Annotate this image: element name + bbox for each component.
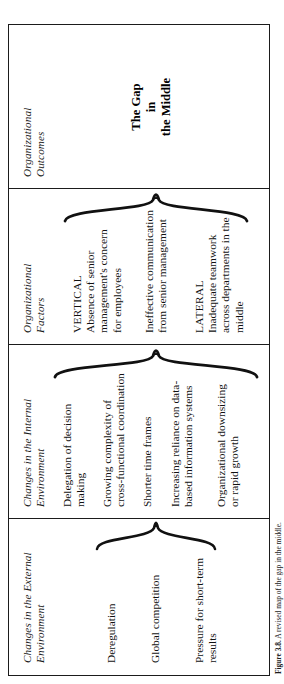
figure-frame: Changes in the External Environment Dere… <box>8 24 270 676</box>
gap-line1: The Gap <box>129 37 144 177</box>
column-header-factors-line1: Organizational <box>21 193 34 333</box>
gap-line3: the Middle <box>159 37 174 177</box>
figure-caption-text: A revised map of the gap in the middle. <box>274 522 283 639</box>
column-header-external-line2: Environment <box>34 523 47 663</box>
rotated-figure-canvas: Changes in the External Environment Dere… <box>0 0 284 684</box>
outcome-gap-in-the-middle: The Gap in the Middle <box>129 37 174 177</box>
column-header-outcomes: Organizational Outcomes <box>21 37 47 177</box>
column-header-outcomes-line2: Outcomes <box>34 37 47 177</box>
column-header-factors-line2: Factors <box>34 193 47 333</box>
figure-page: Changes in the External Environment Dere… <box>0 0 284 684</box>
brace-external-to-internal <box>95 517 217 551</box>
figure-caption: Figure 3.8. A revised map of the gap in … <box>274 522 283 674</box>
brace-factors-to-outcomes <box>63 189 249 223</box>
gap-line2: in <box>144 37 159 177</box>
column-header-outcomes-line1: Organizational <box>21 37 34 177</box>
column-header-internal-line2: Environment <box>34 351 47 507</box>
brace-internal-to-factors <box>53 345 259 379</box>
column-header-internal-line1: Changes in the Internal <box>21 351 34 507</box>
column-header-external: Changes in the External Environment <box>21 523 47 663</box>
figure-caption-number: Figure 3.8. <box>274 640 283 674</box>
column-header-internal: Changes in the Internal Environment <box>21 351 47 507</box>
column-header-factors: Organizational Factors <box>21 193 47 333</box>
column-header-external-line1: Changes in the External <box>21 523 34 663</box>
